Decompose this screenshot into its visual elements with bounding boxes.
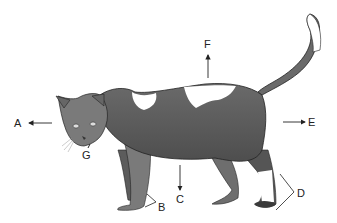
bracket-b bbox=[145, 194, 156, 207]
label-d: D bbox=[297, 188, 305, 199]
label-f: F bbox=[204, 39, 211, 50]
label-a: A bbox=[14, 118, 21, 129]
label-c: C bbox=[176, 194, 184, 205]
label-b: B bbox=[158, 202, 165, 213]
cat-diagram bbox=[0, 0, 337, 223]
label-g: G bbox=[82, 150, 91, 161]
label-e: E bbox=[308, 117, 315, 128]
cat-body bbox=[100, 83, 266, 161]
bracket-d bbox=[276, 174, 294, 210]
